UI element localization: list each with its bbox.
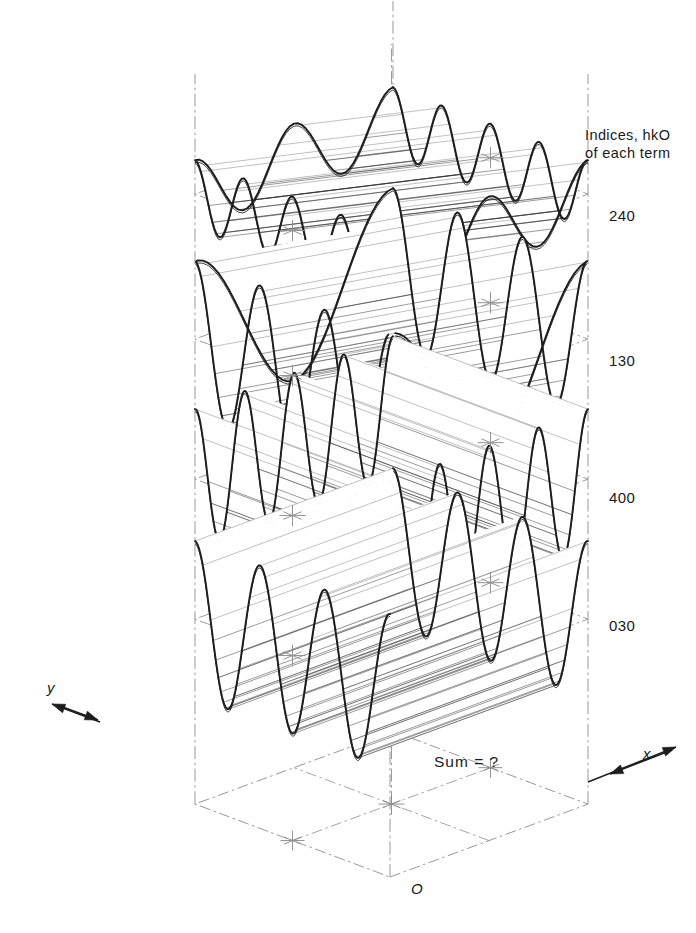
layer-label-130: 130 [609, 352, 635, 369]
layer-label-240: 240 [609, 207, 635, 224]
origin-label: O [411, 880, 423, 897]
layer-label-030: 030 [609, 617, 635, 634]
wave-layers [195, 87, 588, 760]
x-axis-label: x [643, 745, 651, 762]
fourier-synthesis-figure: Indices, hkO of each term 240 130 400 03… [0, 0, 696, 933]
legend-title: Indices, hkO of each term [585, 126, 670, 162]
sum-label: Sum = ? [434, 753, 499, 771]
legend-title-line-2: of each term [585, 144, 670, 162]
layer-label-400: 400 [609, 489, 635, 506]
legend-title-line-1: Indices, hkO [585, 126, 670, 144]
y-axis-label: y [47, 679, 55, 696]
